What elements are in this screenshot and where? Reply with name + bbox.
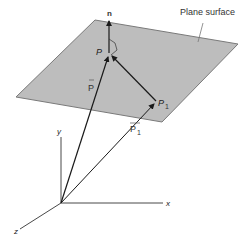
x-axis-label: x [165,199,171,208]
svg-text:P: P [158,98,164,108]
svg-text:P: P [88,83,94,93]
point-p-label: P [96,47,102,57]
y-axis-label: y [56,127,62,136]
z-axis [20,203,61,229]
plane-surface-label: Plane surface [180,7,235,17]
normal-label: n [107,9,112,18]
svg-text:1: 1 [137,129,141,136]
vector-p1 [61,104,154,203]
plane-normal-diagram: Plane surface n P P 1 P P 1 y x z [0,0,248,236]
svg-text:1: 1 [165,103,169,110]
z-axis-label: z [13,227,18,236]
vector-p1-label: P 1 [130,123,141,136]
svg-text:P: P [130,124,136,134]
